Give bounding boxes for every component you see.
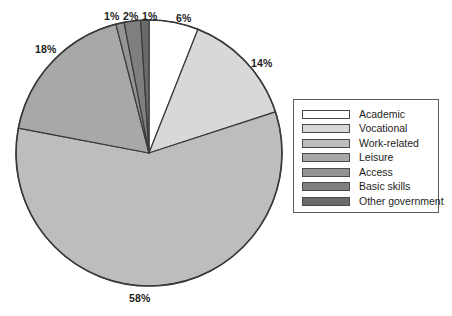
legend-item-label: Academic (359, 109, 405, 120)
pie-slice-percentage-label: 58% (129, 293, 151, 304)
pie-slice-percentage-label: 1% (104, 11, 120, 22)
pie-slice-percentage-label: 18% (35, 44, 57, 55)
legend-color-swatch (302, 139, 350, 148)
pie-slice-percentage-label: 1% (142, 11, 158, 22)
legend-rows: AcademicVocationalWork-relatedLeisureAcc… (302, 107, 432, 208)
legend-item-label: Access (359, 167, 393, 178)
legend-item[interactable]: Other government (302, 194, 432, 208)
legend-color-swatch (302, 110, 350, 119)
legend-item-label: Basic skills (359, 181, 410, 192)
legend-item-label: Other government (359, 196, 444, 207)
legend-color-swatch (302, 182, 350, 191)
legend-item[interactable]: Access (302, 165, 432, 179)
legend-color-swatch (302, 168, 350, 177)
pie-slice-percentage-label: 6% (176, 13, 192, 24)
legend-item[interactable]: Vocational (302, 122, 432, 136)
pie-chart-figure: 1%2%1%6%14%18%58% AcademicVocationalWork… (0, 0, 452, 316)
legend-item[interactable]: Academic (302, 107, 432, 121)
legend-item[interactable]: Basic skills (302, 180, 432, 194)
legend-item[interactable]: Work-related (302, 136, 432, 150)
legend-item[interactable]: Leisure (302, 151, 432, 165)
chart-legend: AcademicVocationalWork-relatedLeisureAcc… (293, 99, 439, 213)
legend-color-swatch (302, 197, 350, 206)
legend-item-label: Leisure (359, 152, 393, 163)
legend-item-label: Work-related (359, 138, 419, 149)
legend-item-label: Vocational (359, 123, 407, 134)
pie-slice-percentage-label: 14% (251, 58, 273, 69)
legend-color-swatch (302, 153, 350, 162)
pie-slice-percentage-label: 2% (123, 11, 139, 22)
pie-slices-group (16, 20, 282, 286)
legend-color-swatch (302, 124, 350, 133)
